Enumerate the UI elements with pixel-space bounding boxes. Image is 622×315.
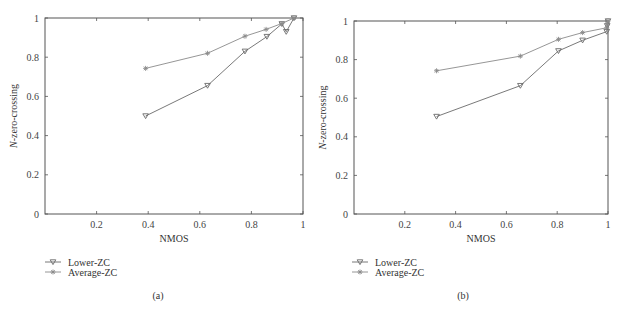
subfigure-caption: (b) bbox=[457, 290, 469, 302]
x-tick-label: 1 bbox=[301, 219, 306, 230]
x-axis-label: NMOS bbox=[467, 233, 496, 244]
y-axis-label: N-zero-crossing bbox=[8, 84, 19, 149]
y-tick-label: 0.4 bbox=[27, 130, 40, 141]
y-tick-label: 0.8 bbox=[336, 54, 349, 65]
x-tick-label: 0.4 bbox=[449, 219, 462, 230]
y-tick-label: 0.8 bbox=[27, 52, 40, 63]
plot-frame bbox=[45, 18, 303, 214]
plot-frame bbox=[354, 21, 608, 214]
x-tick-label: 1 bbox=[606, 219, 611, 230]
chart-a: 0.20.40.60.8100.20.40.60.81NMOSN-zero-cr… bbox=[8, 13, 306, 303]
y-tick-label: 0.6 bbox=[336, 93, 349, 104]
x-tick-label: 0.8 bbox=[551, 219, 564, 230]
y-tick-label: 0.4 bbox=[336, 131, 349, 142]
y-axis-label: N-zero-crossing bbox=[317, 86, 328, 151]
legend-label: Average-ZC bbox=[375, 267, 425, 278]
x-tick-label: 0.4 bbox=[142, 219, 155, 230]
series-lower-zc bbox=[143, 16, 297, 119]
x-tick-label: 0.8 bbox=[245, 219, 258, 230]
series-average-zc bbox=[143, 16, 296, 71]
y-tick-label: 1 bbox=[34, 13, 39, 24]
x-tick-label: 0.6 bbox=[500, 219, 513, 230]
y-tick-label: 1 bbox=[343, 16, 348, 27]
x-tick-label: 0.2 bbox=[399, 219, 412, 230]
y-tick-label: 0.2 bbox=[336, 170, 349, 181]
figure-canvas: 0.20.40.60.8100.20.40.60.81NMOSN-zero-cr… bbox=[0, 0, 622, 315]
y-tick-label: 0.6 bbox=[27, 91, 40, 102]
y-tick-label: 0 bbox=[343, 209, 348, 220]
legend-item: Average-ZC bbox=[352, 267, 425, 278]
chart-b: 0.20.40.60.8100.20.40.60.81NMOSN-zero-cr… bbox=[317, 16, 611, 303]
legend-label: Average-ZC bbox=[68, 267, 118, 278]
y-tick-label: 0.2 bbox=[27, 169, 40, 180]
subfigure-caption: (a) bbox=[152, 290, 163, 302]
x-axis-label: NMOS bbox=[160, 233, 189, 244]
series-average-zc bbox=[434, 19, 610, 74]
x-tick-label: 0.2 bbox=[90, 219, 103, 230]
legend-item: Average-ZC bbox=[45, 267, 118, 278]
x-tick-label: 0.6 bbox=[194, 219, 207, 230]
y-tick-label: 0 bbox=[34, 209, 39, 220]
